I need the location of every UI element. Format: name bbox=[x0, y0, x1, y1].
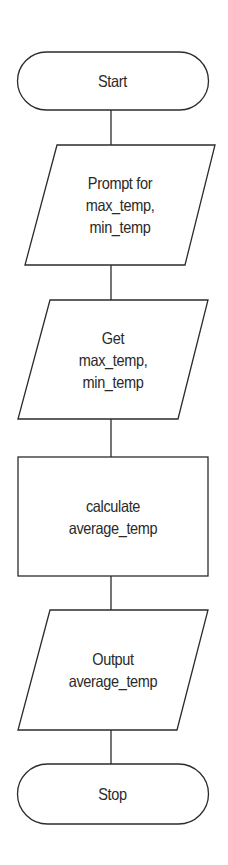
stop-label-line: Stop bbox=[98, 783, 126, 805]
prompt-label: Prompt for max_temp, min_temp bbox=[36, 145, 203, 265]
get-label-line-1: Get bbox=[102, 327, 124, 349]
calculate-label: calculate average_temp bbox=[29, 457, 196, 576]
flowchart-canvas bbox=[0, 0, 228, 865]
start-label: Start bbox=[28, 52, 196, 110]
get-label-line-2: max_temp, bbox=[79, 349, 148, 371]
calculate-label-line-1: calculate bbox=[86, 495, 140, 517]
get-label: Get max_temp, min_temp bbox=[29, 300, 196, 419]
prompt-label-line-1: Prompt for bbox=[88, 172, 152, 194]
prompt-label-line-3: min_temp bbox=[90, 216, 151, 238]
stop-label: Stop bbox=[28, 764, 196, 824]
start-label-line: Start bbox=[98, 70, 127, 92]
output-label-line-1: Output bbox=[92, 648, 133, 670]
calculate-label-line-2: average_temp bbox=[69, 517, 158, 539]
output-label-line-2: average_temp bbox=[69, 670, 158, 692]
get-label-line-3: min_temp bbox=[83, 371, 144, 393]
output-label: Output average_temp bbox=[29, 610, 196, 730]
prompt-label-line-2: max_temp, bbox=[86, 194, 155, 216]
